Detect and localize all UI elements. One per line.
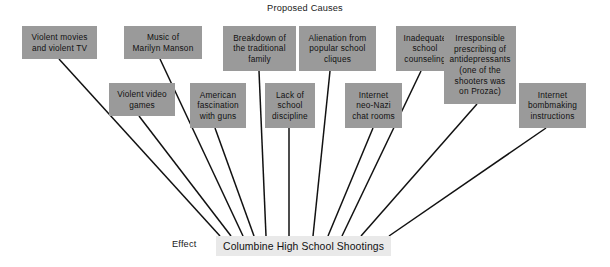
cause-box-line: (one of the <box>459 65 501 76</box>
effect-box: Columbine High School Shootings <box>216 236 391 256</box>
cause-box-music-marilyn-manson: Music ofMarilyn Manson <box>124 26 202 59</box>
cause-box-line: Internet <box>359 90 388 101</box>
cause-box-line: Alienation from <box>309 33 367 44</box>
effect-label: Effect <box>172 239 196 249</box>
cause-box-line: discipline <box>272 111 308 122</box>
cause-box-breakdown-traditional-family: Breakdown ofthe traditionalfamily <box>223 26 296 71</box>
cause-box-line: Violent movies <box>31 32 87 43</box>
connector-line-alienation-popular-cliques <box>313 71 330 236</box>
cause-box-line: Lack of <box>276 90 304 101</box>
cause-box-line: on Prozac) <box>459 86 501 97</box>
cause-box-violent-movies-tv: Violent moviesand violent TV <box>22 26 97 59</box>
cause-box-lack-school-discipline: Lack ofschooldiscipline <box>265 83 315 128</box>
cause-box-line: neo-Nazi <box>356 100 391 111</box>
cause-box-line: instructions <box>531 111 575 122</box>
cause-box-line: cliques <box>324 54 351 65</box>
cause-box-line: fascination <box>197 100 239 111</box>
cause-box-line: counseling <box>404 54 445 65</box>
cause-box-line: Music of <box>147 32 179 43</box>
connector-line-american-fascination-guns <box>215 128 254 236</box>
cause-box-line: Breakdown of <box>233 33 286 44</box>
cause-box-line: games <box>129 100 155 111</box>
cause-box-line: chat rooms <box>352 111 395 122</box>
cause-box-line: with guns <box>200 111 237 122</box>
cause-box-line: Inadequate <box>403 33 446 44</box>
fishbone-diagram: Proposed Causes Effect Columbine High Sc… <box>0 0 610 267</box>
cause-box-line: Irresponsible <box>455 33 505 44</box>
diagram-title: Proposed Causes <box>0 3 610 13</box>
cause-box-line: and violent TV <box>32 43 87 54</box>
cause-box-line: shooters was <box>455 76 506 87</box>
cause-box-line: the traditional <box>233 43 285 54</box>
cause-box-american-fascination-guns: Americanfascinationwith guns <box>190 83 246 128</box>
cause-box-irresponsible-antidepressants: Irresponsibleprescribing ofantidepressan… <box>444 26 516 104</box>
cause-box-line: Violent video <box>117 89 167 100</box>
cause-box-line: Internet <box>538 90 567 101</box>
cause-box-line: American <box>200 90 236 101</box>
cause-box-line: school <box>278 100 303 111</box>
cause-box-line: antidepressants <box>449 54 510 65</box>
cause-box-internet-bombmaking-instructions: Internetbombmakinginstructions <box>519 83 586 128</box>
cause-box-line: bombmaking <box>528 100 577 111</box>
cause-box-alienation-popular-cliques: Alienation frompopular schoolcliques <box>299 26 376 71</box>
cause-box-line: family <box>248 54 271 65</box>
connector-line-internet-bombmaking-instructions <box>389 128 546 236</box>
cause-box-line: school <box>413 43 438 54</box>
cause-box-violent-video-games: Violent videogames <box>109 83 175 116</box>
cause-box-line: prescribing of <box>454 44 506 55</box>
effect-box-text: Columbine High School Shootings <box>223 241 384 252</box>
cause-box-line: popular school <box>309 43 365 54</box>
cause-box-internet-neo-nazi-chat: Internetneo-Nazichat rooms <box>345 83 402 128</box>
cause-box-line: Marilyn Manson <box>133 43 194 54</box>
